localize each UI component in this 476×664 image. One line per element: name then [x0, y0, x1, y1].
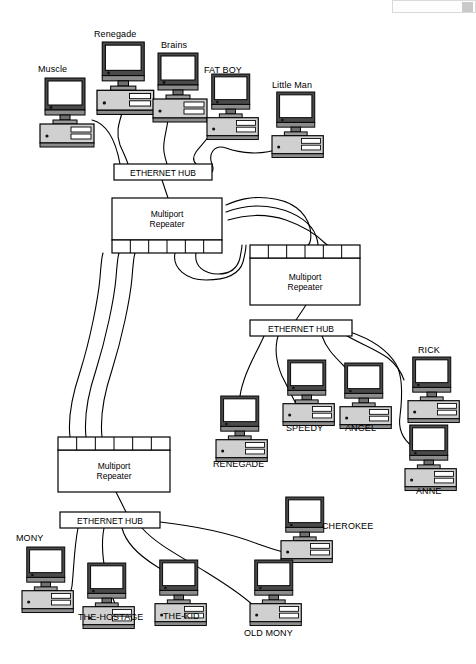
computer-label-cherokee: CHEROKEE [322, 521, 373, 531]
repeater-bottom-label: MultiportRepeater [58, 461, 170, 481]
computer-brains[interactable] [153, 53, 207, 122]
computer-old-mony[interactable] [250, 560, 301, 626]
link-muscle-to-hub-top [92, 120, 120, 164]
computer-label-renegade-2: RENEGADE [213, 459, 264, 469]
computer-renegade-2[interactable] [216, 396, 267, 462]
repeater-middle-label-line2: Repeater [250, 282, 360, 292]
computer-label-renegade-top: Renegade [94, 29, 136, 39]
link-repeater-middle-to-hub-middle [296, 305, 306, 320]
repeater-top-label-line2: Repeater [112, 219, 222, 229]
computer-label-rick: RICK [418, 345, 440, 355]
link-hub-middle-to-renegade-2 [240, 336, 264, 398]
link-repeater-top-to-repeater-middle [226, 206, 318, 245]
diagram-canvas [0, 0, 476, 664]
computer-icon [153, 53, 207, 122]
computer-fat-boy[interactable] [207, 74, 258, 140]
repeater-bottom-port-strip [58, 437, 170, 450]
computer-speedy[interactable] [283, 360, 334, 426]
computer-label-muscle: Muscle [38, 64, 67, 74]
computer-icon [405, 425, 456, 491]
computer-icon [283, 360, 334, 426]
computer-label-the-hostage: THE-HOSTAGE [78, 612, 143, 622]
link-hub-bottom-to-cherokee [160, 522, 298, 555]
computer-label-fat-boy: FAT BOY [204, 65, 242, 75]
computer-icon [272, 92, 323, 158]
computer-icon [340, 363, 391, 429]
repeater-middle-label: MultiportRepeater [250, 272, 360, 292]
computer-label-anne: ANNE [416, 486, 441, 496]
computer-icon [250, 560, 301, 626]
repeater-bottom-label-line2: Repeater [58, 471, 170, 481]
repeater-bottom-label-line1: Multiport [58, 461, 170, 471]
link-repeater-top-to-repeater-middle [226, 197, 311, 245]
computer-label-mony: MONY [16, 533, 43, 543]
link-little-man-to-hub-top [211, 147, 280, 172]
computer-muscle[interactable] [40, 78, 94, 147]
network-diagram: MuscleRenegadeBrainsFAT BOYLittle ManREN… [0, 0, 476, 664]
computer-little-man[interactable] [272, 92, 323, 158]
repeater-middle-port-strip [250, 245, 360, 258]
repeater-top-label-line1: Multiport [112, 209, 222, 219]
computer-anne[interactable] [405, 425, 456, 491]
link-repeater-bottom-port-to-repeater-top-port [101, 253, 135, 437]
computer-label-old-mony: OLD MONY [244, 628, 293, 638]
computer-icon [408, 357, 459, 423]
computer-icon [22, 547, 73, 613]
computer-mony[interactable] [22, 547, 73, 613]
computer-rick[interactable] [408, 357, 459, 423]
computer-label-angel: ANGEL [345, 423, 376, 433]
link-repeater-bottom-to-hub-bottom [116, 492, 126, 512]
connection-links [40, 98, 412, 608]
computer-renegade-top[interactable] [97, 42, 154, 114]
computer-label-the-kid: THE-KID [163, 611, 200, 621]
hub-bottom-label: ETHERNET HUB [60, 516, 160, 526]
computer-angel[interactable] [340, 363, 391, 429]
hub-top-label: ETHERNET HUB [114, 168, 212, 178]
repeater-top-label: MultiportRepeater [112, 209, 222, 229]
computer-icon [97, 42, 154, 114]
computer-icon [216, 396, 267, 462]
computer-label-brains: Brains [161, 40, 187, 50]
link-hub-top-to-repeater-top [162, 180, 168, 198]
hub-middle-label: ETHERNET HUB [250, 324, 352, 334]
repeater-top-port-strip [112, 240, 222, 253]
computer-icon [40, 78, 94, 147]
computer-label-little-man: Little Man [272, 80, 312, 90]
repeater-middle-label-line1: Multiport [250, 272, 360, 282]
computer-label-speedy: SPEEDY [286, 423, 323, 433]
devices [22, 42, 459, 629]
computer-icon [207, 74, 258, 140]
